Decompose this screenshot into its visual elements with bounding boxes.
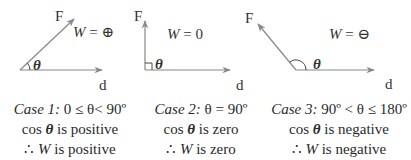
- case-condition: Case 3: 90º < θ ≤ 180º: [267, 99, 411, 119]
- plus-in-circle-icon: ⊕: [101, 24, 114, 40]
- work-statement: ∴ W is negative: [267, 139, 411, 159]
- displacement-label: d: [236, 78, 244, 93]
- force-label: F: [134, 9, 142, 24]
- case-2-caption: Case 2: θ = 90º cos θ is zero ∴ W is zer…: [131, 99, 271, 159]
- cos-statement: cos θ is zero: [131, 119, 271, 139]
- force-arrow: [258, 24, 296, 70]
- angle-arc: [28, 63, 31, 70]
- force-label: F: [55, 9, 63, 24]
- case-condition: Case 2: θ = 90º: [131, 99, 271, 119]
- work-equation: W = ⊖: [329, 27, 370, 42]
- angle-label: θ: [313, 57, 321, 72]
- angle-label: θ: [33, 58, 41, 73]
- case-condition: Case 1: 0 ≤ θ< 90º: [0, 99, 140, 119]
- angle-label: θ: [155, 57, 163, 72]
- work-statement: ∴ W is zero: [131, 139, 271, 159]
- work-equation: W = ⊕: [73, 25, 114, 40]
- case-3-caption: Case 3: 90º < θ ≤ 180º cos θ is negative…: [267, 99, 411, 159]
- right-angle-marker: [145, 63, 152, 70]
- minus-in-circle-icon: ⊖: [357, 26, 370, 42]
- work-statement: ∴ W is positive: [0, 139, 140, 159]
- cos-statement: cos θ is positive: [0, 119, 140, 139]
- force-label: F: [245, 11, 253, 26]
- cos-statement: cos θ is negative: [267, 119, 411, 139]
- displacement-label: d: [385, 77, 393, 92]
- force-arrow: [20, 19, 74, 70]
- work-equation: W = 0: [167, 27, 203, 42]
- case-1-caption: Case 1: 0 ≤ θ< 90º cos θ is positive ∴ W…: [0, 99, 140, 159]
- displacement-label: d: [99, 78, 107, 93]
